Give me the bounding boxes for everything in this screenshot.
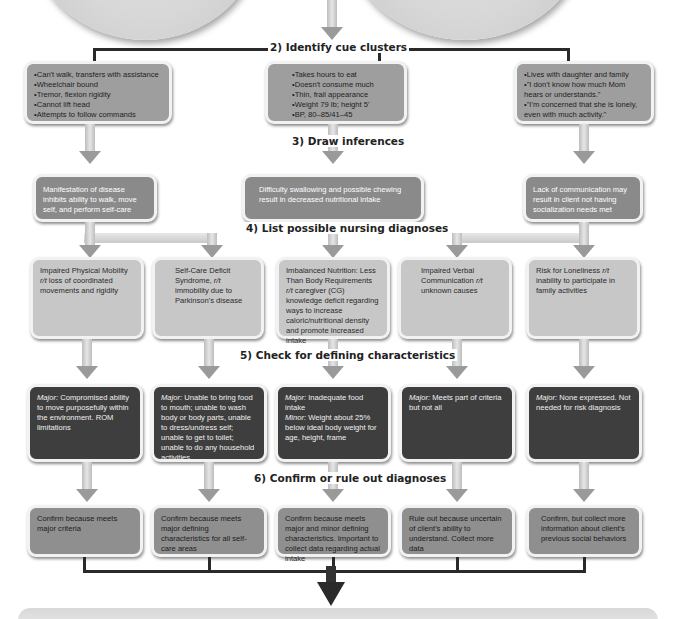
conclusion-verbal: Rule out because uncertain of client's a… [399, 505, 515, 557]
arrow-down-icon [76, 339, 98, 379]
conclusion-nutrition: Confirm because meets major and minor de… [275, 505, 391, 557]
conclusion-self-care: Confirm because meets major defining cha… [151, 505, 267, 557]
top-right-circle [345, 0, 585, 40]
arrow-down-icon [321, 0, 343, 40]
split-connector [452, 233, 582, 243]
cue-item: "I'm concerned that she is lonely, even … [524, 100, 644, 120]
arrow-down-icon [446, 233, 468, 258]
arrow-down-icon [79, 222, 101, 258]
inference-nutrition: Difficulty swallowing and possible chewi… [242, 174, 424, 222]
split-connector [84, 233, 210, 243]
cue-item: "I don't know how much Mom hears or unde… [524, 80, 644, 100]
characteristics-nutrition: Major: Inadequate food intake Minor: Wei… [275, 384, 391, 462]
cue-item: Thin, frail appearance [292, 90, 397, 100]
top-left-circle [30, 0, 260, 40]
connector-line [93, 48, 270, 51]
cue-item: Takes hours to eat [292, 70, 397, 80]
cue-item: Tremor, flexion rigidity [34, 90, 162, 100]
cue-item: Attempts to follow commands [34, 110, 162, 120]
conclusion-loneliness: Confirm, but collect more information ab… [526, 505, 642, 557]
arrow-down-icon [573, 124, 595, 164]
step-6-label: 6) Confirm or rule out diagnoses [252, 472, 448, 484]
cue-item: Can't walk, transfers with assistance [34, 70, 162, 80]
arrow-down-icon [198, 339, 220, 379]
arrow-down-icon [446, 462, 468, 502]
cue-cluster-mobility: Can't walk, transfers with assistance Wh… [24, 61, 172, 124]
cue-item: Lives with daughter and family [524, 70, 644, 80]
step-4-label: 4) List possible nursing diagnoses [244, 222, 450, 234]
cue-cluster-nutrition: Takes hours to eat Doesn't consume much … [265, 61, 407, 124]
arrow-down-icon [198, 462, 220, 502]
cue-item: BP, 80–85/41–45 [292, 110, 397, 120]
diagnosis-physical-mobility: Impaired Physical Mobility r/t loss of c… [30, 257, 144, 339]
arrow-down-icon [201, 233, 223, 258]
inference-social: Lack of communication may result in clie… [523, 174, 643, 222]
inference-mobility: Manifestation of disease inhibits abilit… [33, 174, 157, 222]
cue-item: Cannot lift head [34, 100, 162, 110]
connector-line [93, 48, 96, 62]
diagnosis-self-care-deficit: Self-Care Deficit Syndrome, r/t immobili… [152, 257, 264, 339]
cue-cluster-social: Lives with daughter and family "I don't … [514, 61, 654, 124]
arrow-down-icon [573, 222, 595, 258]
step-2-label: 2) Identify cue clusters [268, 41, 409, 53]
step-5-label: 5) Check for defining characteristics [238, 349, 457, 361]
characteristics-self-care: Major: Unable to bring food to mouth; un… [151, 384, 267, 462]
arrow-down-icon [573, 462, 595, 502]
step-3-label: 3) Draw inferences [290, 135, 406, 147]
connector-line [567, 48, 570, 62]
diagnosis-risk-loneliness: Risk for Loneliness r/t inability to par… [526, 257, 640, 339]
characteristics-loneliness: Major: None expressed. Not needed for ri… [526, 384, 642, 462]
cue-item: Doesn't consume much [292, 80, 397, 90]
arrow-down-icon [573, 339, 595, 379]
bottom-panel [18, 608, 658, 619]
characteristics-verbal: Major: Meets part of criteria but not al… [399, 384, 515, 462]
cue-item: Wheelchair bound [34, 80, 162, 90]
characteristics-mobility: Major: Compromised ability to move purpo… [27, 384, 143, 462]
diagnosis-verbal-communication: Impaired Verbal Communication r/t unknow… [398, 257, 512, 339]
diagnosis-imbalanced-nutrition: Imbalanced Nutrition: Less Than Body Req… [276, 257, 390, 339]
arrow-down-icon [76, 462, 98, 502]
conclusion-mobility: Confirm because meets major criteria [27, 505, 143, 557]
cue-item: Weight 79 lb; height 5' [292, 100, 397, 110]
arrow-down-icon [79, 124, 101, 164]
